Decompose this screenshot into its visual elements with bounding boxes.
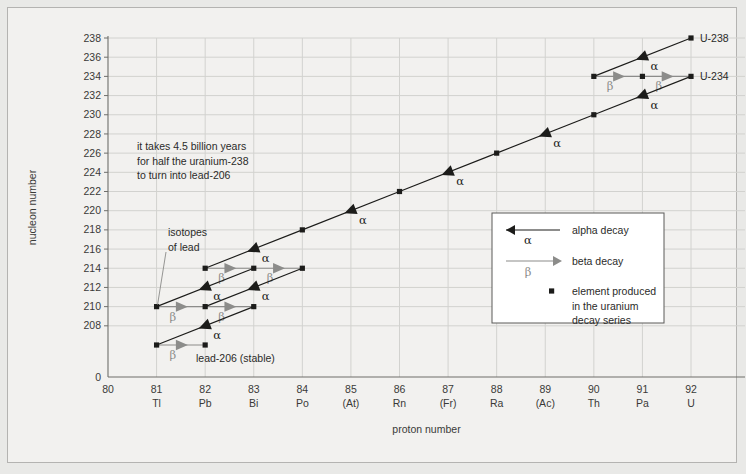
x-element-symbol: Rn: [393, 397, 407, 409]
half-life-note-line: to turn into lead-206: [137, 169, 231, 181]
x-element-symbol: Pa: [636, 397, 649, 409]
nuclide-marker: [640, 74, 645, 79]
y-tick-label: 230: [83, 108, 101, 120]
nuclide-label: U-238: [700, 32, 729, 44]
y-tick-label: 208: [83, 319, 101, 331]
y-tick-label: 232: [83, 89, 101, 101]
chart-svg: 2382362342322302282262242222202182162142…: [0, 0, 746, 474]
x-element-symbol: Th: [588, 397, 600, 409]
legend-marker-label-line: element produced: [572, 285, 656, 297]
legend-alpha-label: alpha decay: [572, 224, 629, 236]
alpha-symbol: α: [359, 213, 367, 227]
x-tick-label: 84: [296, 383, 308, 395]
isotopes-of-lead-label-line: of lead: [168, 241, 200, 253]
nuclide-marker: [397, 189, 402, 194]
beta-decay-arrow: β: [594, 71, 643, 93]
y-tick-label: 216: [83, 243, 101, 255]
nuclide-marker: [154, 304, 159, 309]
legend-marker-swatch: [549, 288, 554, 293]
legend-beta-label: beta decay: [572, 255, 624, 267]
legend-beta-symbol: β: [525, 265, 532, 279]
y-tick-label: 224: [83, 166, 101, 178]
beta-symbol: β: [218, 271, 225, 285]
beta-decay-arrow: β: [157, 301, 206, 323]
x-axis-title: proton number: [392, 423, 461, 435]
y-tick-label: 218: [83, 223, 101, 235]
x-tick-label: 87: [442, 383, 454, 395]
beta-decay-arrow: β: [205, 263, 254, 285]
nuclide-marker: [251, 266, 256, 271]
alpha-symbol: α: [262, 289, 270, 303]
alpha-symbol: α: [213, 289, 221, 303]
beta-symbol: β: [170, 310, 177, 324]
nuclide-marker: [251, 304, 256, 309]
x-element-symbol: Tl: [152, 397, 161, 409]
beta-decay-arrow: β: [254, 263, 303, 285]
alpha-symbol: α: [651, 59, 659, 73]
alpha-symbol: α: [456, 174, 464, 188]
legend-alpha-symbol: α: [524, 233, 532, 247]
legend: αalpha decayβbeta decayelement producedi…: [492, 213, 664, 326]
x-tick-label: 89: [539, 383, 551, 395]
x-element-symbol: Ra: [490, 397, 504, 409]
y-axis-title: nucleon number: [26, 169, 38, 245]
legend-marker-label-line: in the uranium: [572, 300, 639, 312]
x-element-symbol: Bi: [249, 397, 258, 409]
beta-decay-arrow: β: [205, 301, 254, 323]
x-tick-label: 91: [637, 383, 649, 395]
nuclide-marker: [591, 112, 596, 117]
y-tick-label: 210: [83, 300, 101, 312]
legend-marker-label-line: decay series: [572, 314, 631, 326]
y-tick-label: 220: [83, 204, 101, 216]
y-tick-label: 214: [83, 262, 101, 274]
beta-symbol: β: [218, 310, 225, 324]
beta-symbol: β: [170, 348, 177, 362]
y-axis-zero-label: 0: [95, 371, 101, 383]
alpha-symbol: α: [651, 98, 659, 112]
y-tick-label: 238: [83, 32, 101, 44]
x-tick-label: 85: [345, 383, 357, 395]
isotopes-of-lead-label-line: isotopes: [168, 226, 207, 238]
nuclide-marker: [688, 35, 693, 40]
nuclide-marker: [203, 342, 208, 347]
x-tick-label: 88: [491, 383, 503, 395]
x-element-symbol: U: [687, 397, 695, 409]
x-tick-label: 92: [685, 383, 697, 395]
y-tick-label: 236: [83, 51, 101, 63]
x-element-symbol: (Fr): [440, 397, 457, 409]
isotopes-leader-line: [158, 252, 166, 305]
y-tick-label: 226: [83, 147, 101, 159]
nuclide-marker: [300, 227, 305, 232]
x-element-symbol: (At): [342, 397, 359, 409]
y-tick-label: 228: [83, 128, 101, 140]
half-life-note-line: for half the uranium-238: [137, 155, 249, 167]
nuclide-marker: [203, 266, 208, 271]
beta-symbol: β: [655, 79, 662, 93]
half-life-note-line: it takes 4.5 billion years: [137, 140, 246, 152]
x-tick-label: 83: [248, 383, 260, 395]
x-tick-label: 80: [102, 383, 114, 395]
x-tick-label: 81: [151, 383, 163, 395]
y-tick-label: 234: [83, 70, 101, 82]
nuclide-marker: [494, 151, 499, 156]
beta-decay-arrow: β: [642, 71, 691, 93]
alpha-symbol: α: [262, 251, 270, 265]
x-tick-label: 82: [199, 383, 211, 395]
nuclide-marker: [300, 266, 305, 271]
decay-series-chart: 2382362342322302282262242222202182162142…: [0, 0, 746, 474]
alpha-symbol: α: [553, 136, 561, 150]
nuclide-marker: [203, 304, 208, 309]
y-tick-label: 222: [83, 185, 101, 197]
nuclide-marker: [591, 74, 596, 79]
nuclide-marker: [154, 342, 159, 347]
beta-symbol: β: [267, 271, 274, 285]
x-element-symbol: Pb: [199, 397, 212, 409]
beta-symbol: β: [607, 79, 614, 93]
x-element-symbol: Po: [296, 397, 309, 409]
x-tick-label: 90: [588, 383, 600, 395]
lead-206-stable-label: lead-206 (stable): [196, 352, 275, 364]
nuclide-label: U-234: [700, 70, 729, 82]
x-element-symbol: (Ac): [536, 397, 555, 409]
x-tick-label: 86: [394, 383, 406, 395]
y-tick-label: 212: [83, 281, 101, 293]
